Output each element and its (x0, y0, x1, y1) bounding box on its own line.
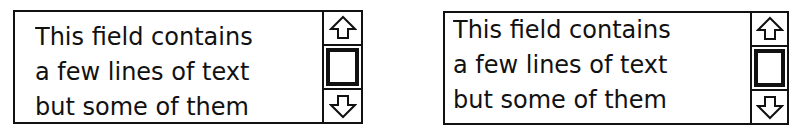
scrolling-text-field-left[interactable]: This field contains a few lines of text … (13, 10, 363, 124)
text-line: This field contains (453, 13, 747, 48)
vertical-scrollbar[interactable] (750, 13, 787, 123)
scroll-down-button[interactable] (324, 88, 361, 122)
field-text-area[interactable]: This field contains a few lines of text … (35, 20, 319, 122)
arrow-up-icon (756, 16, 784, 42)
text-line: but some of them (453, 83, 747, 118)
scrolling-text-field-right[interactable]: This field contains a few lines of text … (443, 11, 789, 125)
vertical-scrollbar[interactable] (322, 12, 361, 122)
text-line: a few lines of text (35, 55, 319, 90)
arrow-down-icon (756, 94, 784, 120)
field-text-area[interactable]: This field contains a few lines of text … (453, 13, 747, 123)
text-line: but some of them (35, 90, 319, 122)
scroll-up-button[interactable] (752, 13, 787, 47)
text-line: a few lines of text (453, 48, 747, 83)
scroll-thumb[interactable] (326, 48, 359, 86)
arrow-up-icon (329, 15, 357, 41)
text-line: This field contains (35, 20, 319, 55)
scroll-up-button[interactable] (324, 12, 361, 46)
scroll-down-button[interactable] (752, 89, 787, 123)
arrow-down-icon (329, 93, 357, 119)
scroll-thumb[interactable] (754, 49, 785, 87)
